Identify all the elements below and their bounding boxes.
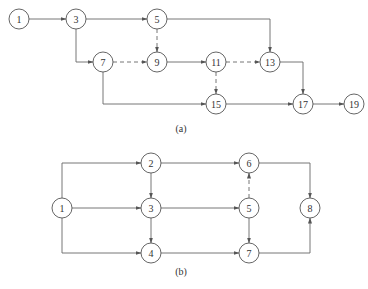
node-label: 2 xyxy=(149,158,154,169)
node-a-19: 19 xyxy=(344,94,364,114)
node-label: 8 xyxy=(308,203,313,214)
node-label: 15 xyxy=(211,99,221,110)
edge-b-1-2 xyxy=(62,163,141,198)
node-b-6: 6 xyxy=(239,153,259,173)
caption-b: (b) xyxy=(175,266,187,278)
edges-layer xyxy=(29,19,344,253)
node-b-8: 8 xyxy=(300,198,320,218)
node-b-4: 4 xyxy=(141,243,161,263)
node-a-5: 5 xyxy=(147,9,167,29)
node-label: 5 xyxy=(155,14,160,25)
node-b-1: 1 xyxy=(52,198,72,218)
node-label: 11 xyxy=(211,57,221,68)
node-label: 9 xyxy=(155,57,160,68)
node-a-11: 11 xyxy=(206,52,226,72)
edge-a-3-7 xyxy=(76,29,93,62)
node-label: 17 xyxy=(298,99,308,110)
network-diagrams: 13579111315171912346578 (a)(b) xyxy=(0,0,368,289)
edge-b-6-8 xyxy=(259,163,310,198)
node-a-13: 13 xyxy=(260,52,280,72)
node-label: 5 xyxy=(247,203,252,214)
caption-a: (a) xyxy=(175,123,186,135)
node-b-2: 2 xyxy=(141,153,161,173)
node-label: 4 xyxy=(149,248,154,259)
node-b-7: 7 xyxy=(239,243,259,263)
edge-a-7-15 xyxy=(103,72,206,104)
node-b-3: 3 xyxy=(141,198,161,218)
node-a-7: 7 xyxy=(93,52,113,72)
node-a-3: 3 xyxy=(66,9,86,29)
edge-b-1-4 xyxy=(62,218,141,253)
node-label: 7 xyxy=(101,57,106,68)
captions-layer: (a)(b) xyxy=(175,123,187,278)
node-a-1: 1 xyxy=(9,9,29,29)
node-a-9: 9 xyxy=(147,52,167,72)
node-label: 1 xyxy=(17,14,22,25)
node-label: 7 xyxy=(247,248,252,259)
node-a-15: 15 xyxy=(206,94,226,114)
node-label: 13 xyxy=(265,57,275,68)
edge-a-5-13 xyxy=(167,19,270,52)
node-label: 19 xyxy=(349,99,359,110)
node-a-17: 17 xyxy=(293,94,313,114)
node-label: 6 xyxy=(247,158,252,169)
node-b-5: 5 xyxy=(239,198,259,218)
edge-b-7-8 xyxy=(259,218,310,253)
node-label: 3 xyxy=(74,14,79,25)
network-diagram-canvas: 13579111315171912346578 (a)(b) xyxy=(0,0,368,289)
edge-a-13-17 xyxy=(280,62,303,94)
node-label: 1 xyxy=(60,203,65,214)
node-label: 3 xyxy=(149,203,154,214)
